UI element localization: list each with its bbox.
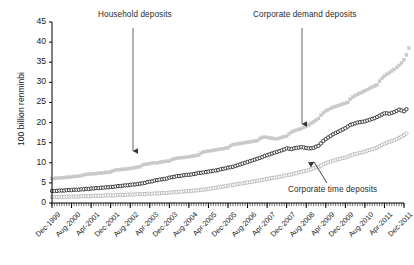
y-tick-20: 20 bbox=[30, 117, 46, 127]
annotation-corporate-time: Corporate time deposits bbox=[288, 185, 377, 194]
y-tick-5: 5 bbox=[30, 177, 46, 187]
y-tick-30: 30 bbox=[30, 76, 46, 86]
y-tick-10: 10 bbox=[30, 157, 46, 167]
series-1 bbox=[50, 108, 408, 193]
series-layer bbox=[50, 47, 410, 199]
series-0 bbox=[51, 47, 411, 181]
y-tick-15: 15 bbox=[30, 137, 46, 147]
axis-frame bbox=[49, 22, 404, 208]
annotation-corporate-demand: Corporate demand deposits bbox=[253, 10, 357, 19]
y-tick-25: 25 bbox=[30, 96, 46, 106]
y-tick-45: 45 bbox=[30, 16, 46, 26]
y-tick-0: 0 bbox=[30, 197, 46, 207]
y-tick-35: 35 bbox=[30, 56, 46, 66]
annotation-arrows bbox=[133, 28, 327, 183]
annotation-household: Household deposits bbox=[98, 10, 172, 19]
y-tick-40: 40 bbox=[30, 36, 46, 46]
